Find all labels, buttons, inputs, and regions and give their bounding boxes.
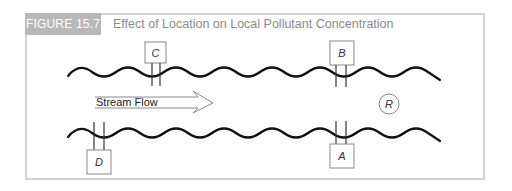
sensor-d: D (87, 122, 111, 174)
upper-bank-wave (68, 68, 440, 81)
stream-flow-label: Stream Flow (96, 96, 158, 108)
sensor-b: B (330, 41, 354, 87)
receptor-r: R (379, 94, 399, 114)
sensor-c: C (145, 42, 166, 86)
receptor-r-label: R (385, 98, 393, 110)
sensor-a-label: A (337, 150, 345, 162)
sensor-a: A (330, 121, 354, 168)
lower-bank-wave (68, 129, 440, 142)
sensor-c-label: C (152, 47, 160, 59)
stream-diagram: C B D A Stream Flow R (0, 0, 512, 191)
sensor-d-label: D (95, 156, 103, 168)
sensor-b-label: B (338, 47, 345, 59)
